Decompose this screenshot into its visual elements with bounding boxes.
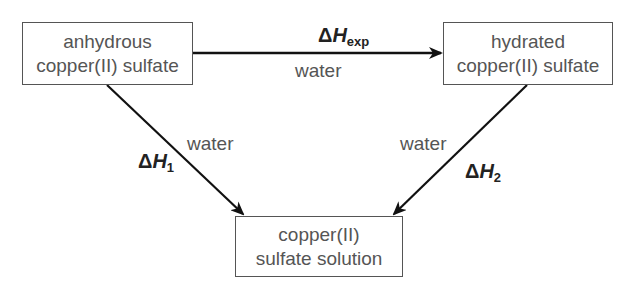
enthalpy-cycle-diagram: anhydrous copper(II) sulfate hydrated co… (0, 0, 627, 294)
delta-symbol: Δ (138, 150, 152, 172)
reagent-label-right: water (400, 133, 446, 155)
reagent-label-top: water (295, 60, 341, 82)
delta-symbol: Δ (465, 160, 479, 182)
enthalpy-label-exp: ΔHexp (318, 24, 369, 46)
node-anhydrous-line1: anhydrous (63, 30, 152, 54)
node-solution-line1: copper(II) (278, 223, 359, 247)
enthalpy-label-2: ΔH2 (465, 160, 501, 182)
enthalpy-var: H (152, 150, 166, 172)
enthalpy-label-1: ΔH1 (138, 150, 174, 172)
enthalpy-subscript: exp (347, 34, 369, 49)
node-hydrated-line1: hydrated (491, 30, 565, 54)
enthalpy-var: H (479, 160, 493, 182)
node-solution-line2: sulfate solution (256, 247, 383, 271)
enthalpy-subscript: 2 (494, 170, 501, 185)
node-hydrated-copper-sulfate: hydrated copper(II) sulfate (443, 22, 613, 85)
delta-symbol: Δ (318, 24, 332, 46)
enthalpy-subscript: 1 (167, 160, 174, 175)
enthalpy-var: H (332, 24, 346, 46)
node-copper-sulfate-solution: copper(II) sulfate solution (235, 216, 403, 277)
reagent-label-left: water (187, 133, 233, 155)
node-hydrated-line2: copper(II) sulfate (457, 54, 600, 78)
node-anhydrous-line2: copper(II) sulfate (36, 54, 179, 78)
node-anhydrous-copper-sulfate: anhydrous copper(II) sulfate (22, 22, 193, 85)
